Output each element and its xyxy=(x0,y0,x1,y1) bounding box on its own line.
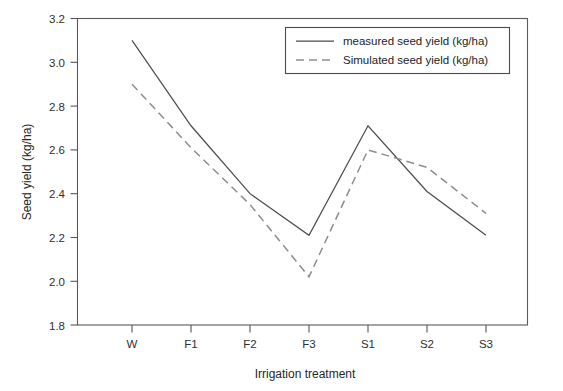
y-axis-ticks xyxy=(71,19,78,326)
legend-label-measured: measured seed yield (kg/ha) xyxy=(343,35,488,47)
y-tick-label: 2.4 xyxy=(49,188,66,200)
y-tick-label: 2.0 xyxy=(49,276,65,288)
x-tick-label: F3 xyxy=(302,338,315,350)
y-axis-title: Seed yield (kg/ha) xyxy=(20,124,34,221)
legend: measured seed yield (kg/ha) Simulated se… xyxy=(286,28,510,74)
y-tick-label: 2.8 xyxy=(49,101,65,113)
y-tick-label: 3.2 xyxy=(49,13,65,25)
y-tick-label: 2.6 xyxy=(49,144,65,156)
x-tick-label: S1 xyxy=(361,338,375,350)
y-tick-label: 3.0 xyxy=(49,57,65,69)
y-tick-label: 1.8 xyxy=(49,320,65,332)
y-tick-label: 2.2 xyxy=(49,232,65,244)
x-tick-label: F1 xyxy=(184,338,197,350)
y-axis-tick-labels: 3.2 3.0 2.8 2.6 2.4 2.2 2.0 1.8 xyxy=(49,13,66,332)
x-axis-tick-labels: W F1 F2 F3 S1 S2 S3 xyxy=(127,338,493,350)
x-tick-label: W xyxy=(127,338,138,350)
chart-figure: 3.2 3.0 2.8 2.6 2.4 2.2 2.0 1.8 W F1 F2 … xyxy=(0,0,563,391)
line-chart: 3.2 3.0 2.8 2.6 2.4 2.2 2.0 1.8 W F1 F2 … xyxy=(0,0,563,391)
x-tick-label: F2 xyxy=(243,338,256,350)
x-axis-ticks xyxy=(132,325,486,333)
x-tick-label: S2 xyxy=(420,338,434,350)
legend-label-simulated: Simulated seed yield (kg/ha) xyxy=(343,54,488,66)
x-tick-label: S3 xyxy=(479,338,493,350)
series-line-simulated xyxy=(132,84,486,277)
x-axis-title: Irrigation treatment xyxy=(255,367,356,381)
